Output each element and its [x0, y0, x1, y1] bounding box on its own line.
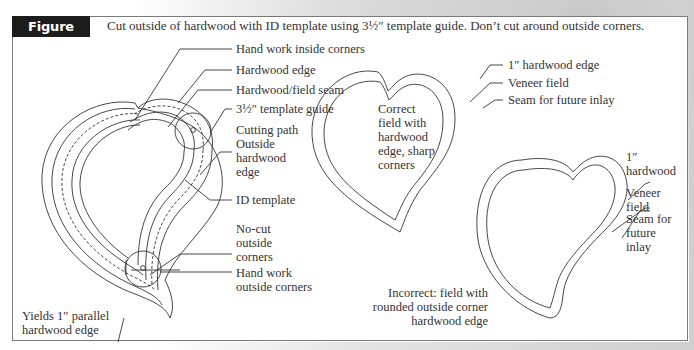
callout-line: inlay	[626, 240, 671, 254]
callout-line: Cutting path	[236, 123, 298, 137]
callout-line: hardwood	[626, 164, 676, 178]
callout-veneer-field-incorrect: Veneer field	[626, 186, 661, 214]
callout-hand-work-outside-corners: Hand work outside corners	[236, 266, 312, 294]
callout-cutting-path: Cutting path Outside hardwood edge	[236, 123, 298, 179]
note-line: hardwood	[378, 130, 435, 144]
callout-line: 1″	[626, 150, 676, 164]
callout-line: outside	[236, 236, 273, 250]
callout-line: hardwood	[236, 151, 298, 165]
callout-line: No-cut	[236, 222, 273, 236]
correct-field-note: Correct field with hardwood edge, sharp …	[378, 102, 435, 172]
callout-line: Veneer	[626, 186, 661, 200]
callout-line: outside corners	[236, 280, 312, 294]
correct-leader-lines	[470, 65, 503, 108]
callout-line: Outside	[236, 137, 298, 151]
callout-hardwood-edge: Hardwood edge	[236, 63, 316, 77]
incorrect-field-note: Incorrect: field with rounded outside co…	[372, 286, 488, 328]
callout-line: edge	[236, 165, 298, 179]
note-line: Correct	[378, 102, 435, 116]
note-line: corners	[378, 158, 435, 172]
callout-line: Seam for	[626, 212, 671, 226]
callout-1in-hardwood: 1″ hardwood	[626, 150, 676, 178]
callout-seam-future-inlay: Seam for future inlay	[508, 93, 615, 107]
callout-id-template: ID template	[236, 193, 295, 207]
callout-seam-future-inlay-incorrect: Seam for future inlay	[626, 212, 671, 254]
callout-template-guide: 3½″ template guide	[236, 102, 334, 116]
callout-hardwood-field-seam: Hardwood/field seam	[236, 83, 344, 97]
callout-yields-parallel-edge: Yields 1″ parallel hardwood edge	[22, 309, 109, 337]
note-line: rounded outside corner	[372, 300, 488, 314]
callout-line: Hand work	[236, 266, 312, 280]
note-line: edge, sharp	[378, 144, 435, 158]
callout-hand-work-inside-corners: Hand work inside corners	[236, 42, 365, 56]
note-line: field with	[378, 116, 435, 130]
callout-line: corners	[236, 250, 273, 264]
callout-line: future	[626, 226, 671, 240]
note-line: Incorrect: field with	[372, 286, 488, 300]
callout-no-cut-outside-corners: No-cut outside corners	[236, 222, 273, 264]
incorrect-heart	[477, 156, 627, 318]
note-line: hardwood edge	[372, 314, 488, 328]
callout-veneer-field: Veneer field	[508, 76, 569, 90]
callout-line: Yields 1″ parallel	[22, 309, 109, 323]
left-leader-lines	[118, 49, 232, 342]
left-heart	[42, 99, 222, 318]
callout-1in-hardwood-edge: 1″ hardwood edge	[508, 58, 599, 72]
callout-line: hardwood edge	[22, 323, 109, 337]
